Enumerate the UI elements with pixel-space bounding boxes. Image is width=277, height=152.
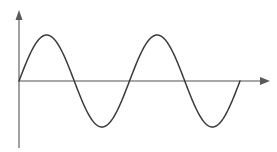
y-axis-arrow-icon (16, 10, 23, 20)
plot-canvas (0, 0, 277, 152)
sine-wave-figure (0, 0, 277, 152)
x-axis-arrow-icon (260, 77, 270, 85)
